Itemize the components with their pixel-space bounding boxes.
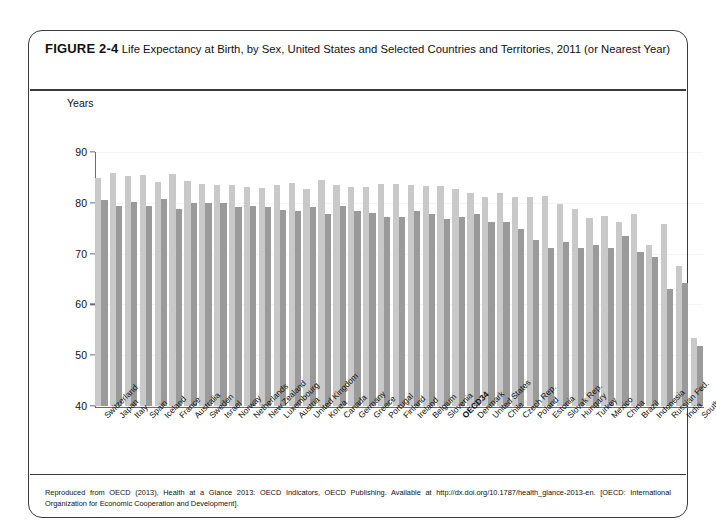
bar-men <box>652 257 658 406</box>
y-tick-label: 40 <box>49 400 95 412</box>
bar-men <box>429 214 435 406</box>
bar-group <box>169 152 182 406</box>
bar-men <box>205 203 211 406</box>
bar-men <box>667 289 673 406</box>
bar-men <box>637 252 643 406</box>
y-tick-label: 60 <box>49 298 95 310</box>
bar-men <box>474 214 480 406</box>
figure-label: FIGURE 2-4 <box>45 41 119 56</box>
y-axis-title: Years <box>67 97 93 109</box>
bar-men <box>414 211 420 406</box>
bar-men <box>161 199 167 406</box>
bar-men <box>116 206 122 406</box>
bar-group <box>140 152 153 406</box>
bar-group <box>512 152 525 406</box>
x-axis-labels: SwitzerlandJapanItalySpainIcelandFranceA… <box>95 410 704 480</box>
source-divider <box>30 474 686 476</box>
bar-group <box>408 152 421 406</box>
figure-title: Life Expectancy at Birth, by Sex, United… <box>122 43 670 55</box>
bar-group <box>661 152 674 406</box>
figure-page: FIGURE 2-4 Life Expectancy at Birth, by … <box>0 0 716 530</box>
bar-men <box>176 209 182 406</box>
y-tick-label: 50 <box>49 349 95 361</box>
bar-men <box>622 236 628 406</box>
bar-group <box>676 152 689 406</box>
bar-men <box>265 207 271 406</box>
bar-group <box>318 152 331 406</box>
bar-men <box>280 210 286 406</box>
bar-group <box>572 152 585 406</box>
bar-group <box>616 152 629 406</box>
bar-men <box>399 217 405 406</box>
bar-group <box>557 152 570 406</box>
bar-group <box>482 152 495 406</box>
bar-group <box>289 152 302 406</box>
bar-group <box>95 152 108 406</box>
bar-group <box>303 152 316 406</box>
bar-group <box>691 152 704 406</box>
bar-men <box>131 202 137 406</box>
bar-group <box>497 152 510 406</box>
bar-men <box>563 242 569 406</box>
bar-group <box>542 152 555 406</box>
bar-men <box>146 206 152 406</box>
plot-region: 405060708090 <box>95 152 703 406</box>
y-tick-label: 80 <box>49 197 95 209</box>
bar-men <box>250 206 256 406</box>
y-tick-label: 90 <box>49 146 95 158</box>
bar-men <box>369 213 375 406</box>
bar-group <box>274 152 287 406</box>
bar-men <box>533 240 539 406</box>
bar-group <box>527 152 540 406</box>
bar-group <box>393 152 406 406</box>
bar-group <box>378 152 391 406</box>
bar-group <box>184 152 197 406</box>
bar-group <box>199 152 212 406</box>
bar-men <box>340 206 346 406</box>
figure-caption: FIGURE 2-4 Life Expectancy at Birth, by … <box>45 41 671 57</box>
y-tick-label: 70 <box>49 248 95 260</box>
bar-group <box>214 152 227 406</box>
bar-men <box>325 214 331 406</box>
bar-group <box>452 152 465 406</box>
bar-group <box>586 152 599 406</box>
bar-men <box>235 207 241 406</box>
bar-men <box>608 248 614 406</box>
bar-men <box>503 222 509 406</box>
bar-group <box>229 152 242 406</box>
bar-men <box>488 222 494 406</box>
bar-group <box>244 152 257 406</box>
bar-men <box>295 211 301 406</box>
bar-men <box>682 283 688 406</box>
bar-series-container <box>95 152 703 406</box>
bar-group <box>646 152 659 406</box>
bar-men <box>384 217 390 406</box>
bar-men <box>220 203 226 406</box>
bar-group <box>467 152 480 406</box>
bar-men <box>444 219 450 406</box>
figure-panel: FIGURE 2-4 Life Expectancy at Birth, by … <box>28 30 688 518</box>
bar-group <box>423 152 436 406</box>
bar-group <box>110 152 123 406</box>
bar-group <box>437 152 450 406</box>
chart-area: Years 405060708090 SwitzerlandJapanItaly… <box>29 89 687 474</box>
bar-group <box>601 152 614 406</box>
bar-group <box>259 152 272 406</box>
bar-men <box>191 203 197 406</box>
bar-men <box>310 207 316 406</box>
bar-group <box>333 152 346 406</box>
bar-men <box>578 248 584 406</box>
bar-men <box>459 217 465 406</box>
bar-group <box>631 152 644 406</box>
bar-men <box>101 200 107 406</box>
source-note: Reproduced from OECD (2013), Health at a… <box>45 487 671 509</box>
bar-group <box>155 152 168 406</box>
bar-group <box>348 152 361 406</box>
bar-group <box>363 152 376 406</box>
bar-group <box>125 152 138 406</box>
